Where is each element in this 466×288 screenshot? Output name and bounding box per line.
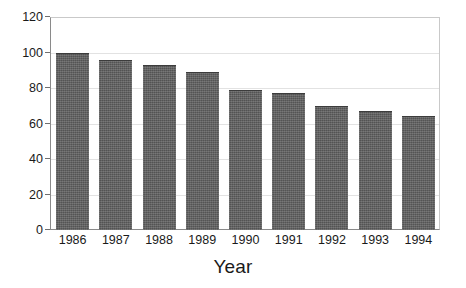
- y-tick-80: [45, 87, 50, 88]
- x-axis-label: 1990: [224, 234, 267, 247]
- x-axis-label: 1994: [397, 234, 440, 247]
- y-axis-label: 100: [3, 46, 43, 59]
- bar-1986: [56, 53, 89, 231]
- y-axis-label: 20: [3, 188, 43, 201]
- bar-1988: [143, 65, 176, 230]
- x-axis-label: 1986: [51, 234, 94, 247]
- y-axis-label: 40: [3, 153, 43, 166]
- bars-layer: [51, 17, 440, 230]
- bar-1994: [402, 116, 435, 230]
- x-axis-label: 1991: [267, 234, 310, 247]
- y-axis-label: 80: [3, 82, 43, 95]
- y-axis-label: 0: [3, 224, 43, 237]
- bar-1987: [99, 60, 132, 230]
- y-tick-40: [45, 158, 50, 159]
- y-axis-labels: 020406080100120: [0, 0, 43, 288]
- y-tick-100: [45, 52, 50, 53]
- x-axis-labels: 198619871988198919901991199219931994: [51, 234, 440, 252]
- bar-1992: [315, 106, 348, 230]
- x-axis-label: 1993: [354, 234, 397, 247]
- bar-1990: [229, 90, 262, 230]
- x-axis-label: 1992: [310, 234, 353, 247]
- bar-chart: 020406080100120 198619871988198919901991…: [0, 0, 466, 288]
- y-axis-label: 60: [3, 117, 43, 130]
- y-tick-20: [45, 194, 50, 195]
- x-axis-title: Year: [0, 256, 466, 278]
- x-axis-label: 1989: [181, 234, 224, 247]
- y-tick-60: [45, 123, 50, 124]
- bar-1989: [186, 72, 219, 230]
- y-axis-label: 120: [3, 11, 43, 24]
- y-tick-0: [45, 229, 50, 230]
- x-axis-label: 1987: [94, 234, 137, 247]
- bar-1993: [359, 111, 392, 230]
- y-tick-120: [45, 16, 50, 17]
- x-axis-label: 1988: [137, 234, 180, 247]
- bar-1991: [272, 93, 305, 230]
